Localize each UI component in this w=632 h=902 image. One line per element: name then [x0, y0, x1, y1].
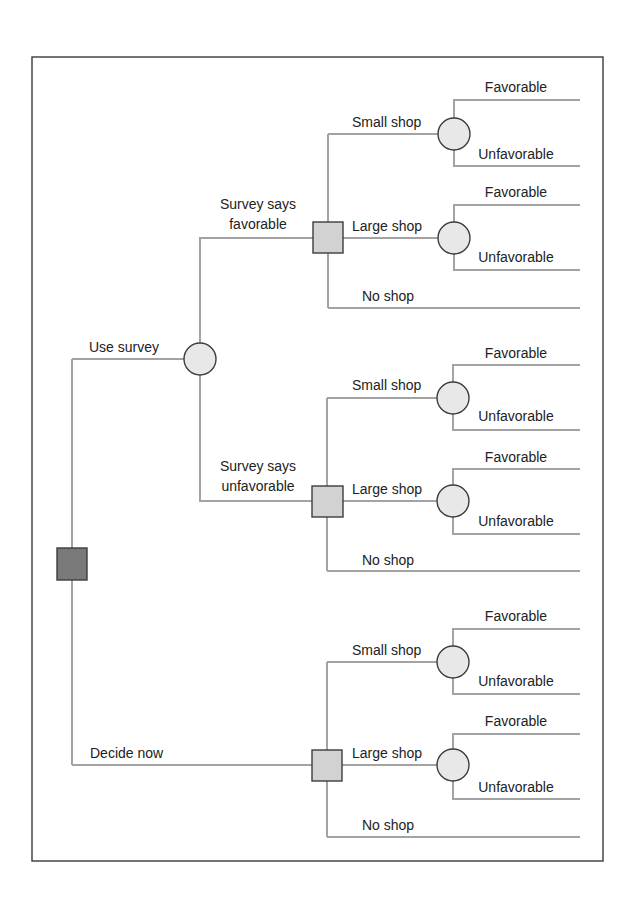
g2-large-chance-node-icon — [437, 485, 469, 517]
g1-small-favorable-branch — [454, 100, 580, 118]
g2-large-unfavorable-label: Unfavorable — [478, 513, 554, 529]
decide-now-label: Decide now — [90, 745, 164, 761]
g1-large-shop-label: Large shop — [352, 218, 422, 234]
g2-small-favorable-branch — [453, 365, 580, 382]
use-survey-label: Use survey — [89, 339, 159, 355]
survey-unfavorable-label-line1: Survey says — [220, 458, 296, 474]
g1-large-unfavorable-label: Unfavorable — [478, 249, 554, 265]
g3-large-shop-label: Large shop — [352, 745, 422, 761]
g3-large-favorable-branch — [453, 734, 580, 749]
decision-tree-diagram: Use survey Decide now Survey says favora… — [0, 0, 632, 902]
g3-small-favorable-branch — [453, 629, 580, 646]
root-branches — [72, 359, 312, 765]
survey-unfavorable-label-line2: unfavorable — [221, 478, 294, 494]
g2-large-favorable-branch — [453, 469, 580, 485]
g1-decision-node-icon — [313, 222, 343, 253]
g1-large-chance-node-icon — [438, 222, 470, 254]
g1-small-unfavorable-label: Unfavorable — [478, 146, 554, 162]
survey-favorable-branch — [200, 238, 313, 343]
g3-decision-node-icon — [312, 750, 342, 781]
g1-small-favorable-label: Favorable — [485, 79, 547, 95]
g2-decision-node-icon — [312, 486, 343, 517]
g2-small-chance-node-icon — [437, 382, 469, 414]
g3-large-chance-node-icon — [437, 749, 469, 781]
g3-large-favorable-label: Favorable — [485, 713, 547, 729]
survey-favorable-label-line1: Survey says — [220, 196, 296, 212]
g2-small-shop-label: Small shop — [352, 377, 421, 393]
g1-small-shop-label: Small shop — [352, 114, 421, 130]
g3-small-favorable-label: Favorable — [485, 608, 547, 624]
g3-large-unfavorable-label: Unfavorable — [478, 779, 554, 795]
g3-no-shop-label: No shop — [362, 817, 414, 833]
g2-small-favorable-label: Favorable — [485, 345, 547, 361]
g2-large-favorable-label: Favorable — [485, 449, 547, 465]
g1-large-favorable-branch — [454, 205, 580, 222]
root-decision-node-icon — [57, 548, 87, 580]
g3-small-unfavorable-label: Unfavorable — [478, 673, 554, 689]
g1-large-favorable-label: Favorable — [485, 184, 547, 200]
g2-small-unfavorable-label: Unfavorable — [478, 408, 554, 424]
g1-small-chance-node-icon — [438, 118, 470, 150]
survey-favorable-label-line2: favorable — [229, 216, 287, 232]
g2-no-shop-label: No shop — [362, 552, 414, 568]
g3-small-shop-label: Small shop — [352, 642, 421, 658]
g1-no-shop-label: No shop — [362, 288, 414, 304]
g3-small-chance-node-icon — [437, 646, 469, 678]
g2-large-shop-label: Large shop — [352, 481, 422, 497]
survey-chance-node-icon — [184, 343, 216, 375]
